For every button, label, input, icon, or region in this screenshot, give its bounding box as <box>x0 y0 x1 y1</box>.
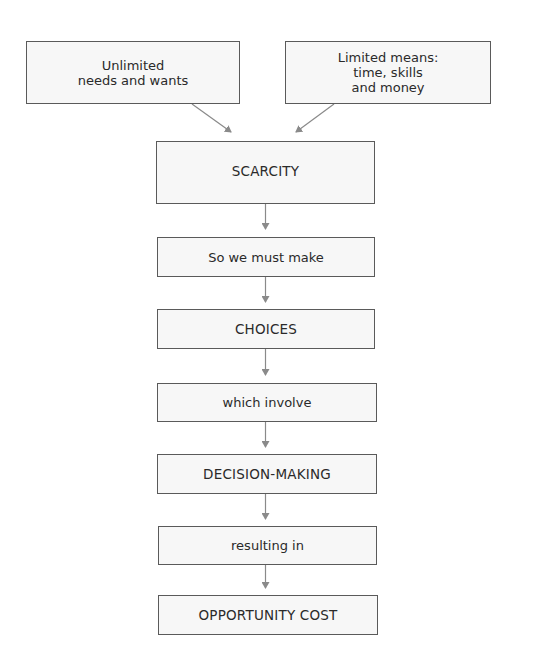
node-label: Limited means: time, skills and money <box>338 50 439 95</box>
node-which-involve: which involve <box>157 383 377 422</box>
arrow-needs-to-scarcity <box>192 104 231 132</box>
node-label: DECISION-MAKING <box>203 467 331 482</box>
node-choices: CHOICES <box>157 309 375 349</box>
node-label: resulting in <box>231 538 304 553</box>
node-label: Unlimited needs and wants <box>78 58 189 88</box>
node-label: SCARCITY <box>232 164 299 179</box>
node-label: So we must make <box>208 250 324 265</box>
node-so-we-must-make: So we must make <box>157 237 375 277</box>
node-opportunity-cost: OPPORTUNITY COST <box>158 595 378 635</box>
node-decision-making: DECISION-MAKING <box>157 454 377 494</box>
node-label: CHOICES <box>235 322 297 337</box>
node-resulting-in: resulting in <box>158 526 377 565</box>
node-scarcity: SCARCITY <box>156 141 375 204</box>
node-label: which involve <box>223 395 312 410</box>
node-limited-means: Limited means: time, skills and money <box>285 41 491 104</box>
node-label: OPPORTUNITY COST <box>199 608 338 623</box>
node-unlimited-needs: Unlimited needs and wants <box>26 41 240 104</box>
arrow-means-to-scarcity <box>296 104 334 132</box>
